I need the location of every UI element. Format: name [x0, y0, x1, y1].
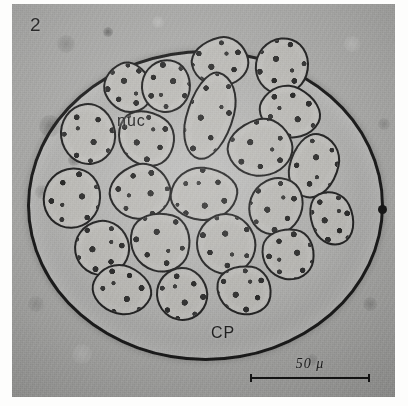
nucleus-label: nuc	[117, 112, 146, 130]
cyst-wall-nodule	[378, 205, 387, 214]
photomicrograph-figure: 2 nuc CP 50 μ	[0, 0, 408, 406]
background-blotch	[363, 297, 377, 311]
cytoplasm-label: CP	[211, 324, 235, 342]
background-blotch	[344, 36, 360, 52]
scale-bar: 50 μ	[248, 356, 372, 386]
cell-granules	[56, 99, 120, 168]
background-blotch	[72, 344, 92, 364]
figure-number: 2	[30, 14, 41, 36]
scale-bar-line	[250, 377, 370, 379]
scale-bar-label: 50 μ	[248, 356, 372, 372]
background-blotch	[57, 35, 75, 53]
background-blotch	[28, 296, 44, 312]
cyst-cell	[213, 261, 275, 318]
photographic-plate: 2 nuc CP 50 μ	[12, 4, 395, 397]
background-blotch	[152, 16, 164, 28]
background-blotch	[103, 27, 113, 37]
cyst-cell	[56, 99, 120, 168]
background-blotch	[378, 118, 390, 130]
cell-granules	[213, 261, 275, 318]
